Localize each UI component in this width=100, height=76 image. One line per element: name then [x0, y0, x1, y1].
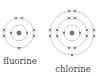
nucleus-icon — [17, 31, 21, 35]
chlorine-label: chlorine — [50, 65, 96, 74]
fluorine-atom — [3, 17, 36, 50]
chlorine-atom — [49, 10, 96, 57]
nucleus-icon — [70, 31, 74, 35]
fluorine-label: fluorine — [2, 57, 38, 66]
